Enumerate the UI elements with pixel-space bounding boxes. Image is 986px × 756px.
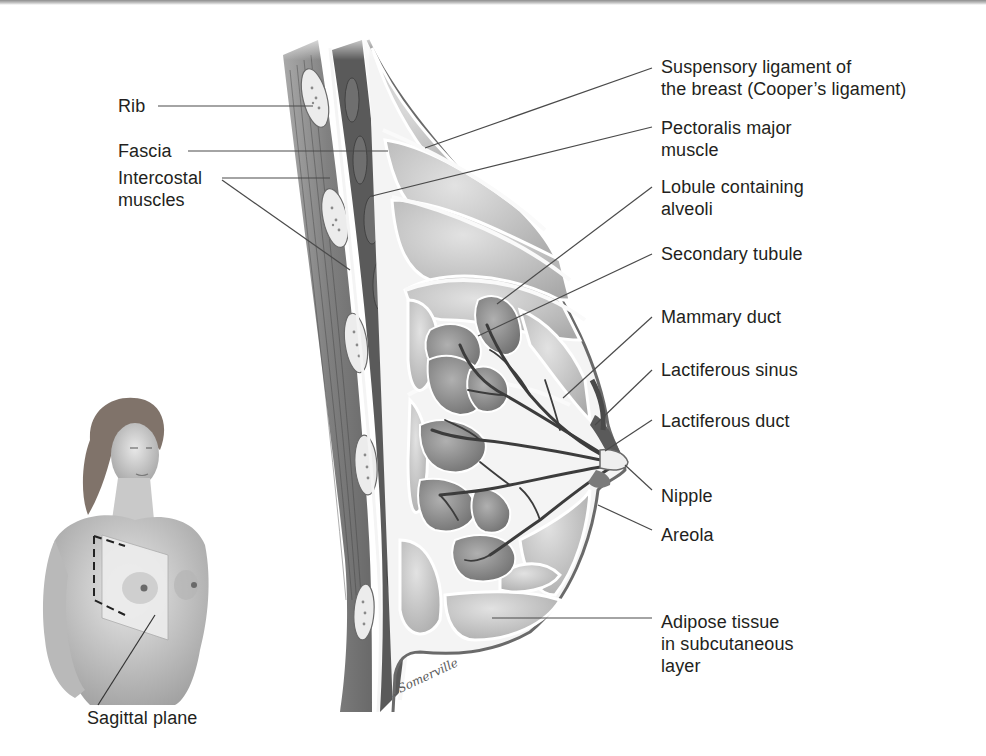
label-intercostal-muscles: Intercostal muscles: [118, 167, 202, 211]
label-pectoralis-major: Pectoralis major muscle: [661, 117, 792, 161]
inset-torso-illustration: [43, 398, 209, 705]
label-rib: Rib: [118, 95, 145, 117]
anatomy-illustration: K. Somerville: [0, 0, 986, 756]
label-sagittal-plane: Sagittal plane: [87, 707, 197, 729]
breast-anatomy-figure: K. Somerville: [0, 0, 986, 756]
label-lactiferous-sinus: Lactiferous sinus: [661, 359, 798, 381]
label-adipose-tissue: Adipose tissue in subcutaneous layer: [661, 611, 794, 677]
label-mammary-duct: Mammary duct: [661, 306, 781, 328]
label-lobule: Lobule containing alveoli: [661, 176, 804, 220]
label-suspensory-ligament: Suspensory ligament of the breast (Coope…: [661, 56, 906, 100]
label-lactiferous-duct: Lactiferous duct: [661, 410, 790, 432]
label-secondary-tubule: Secondary tubule: [661, 243, 803, 265]
label-areola: Areola: [661, 524, 714, 546]
label-fascia: Fascia: [118, 140, 172, 162]
label-nipple: Nipple: [661, 485, 713, 507]
